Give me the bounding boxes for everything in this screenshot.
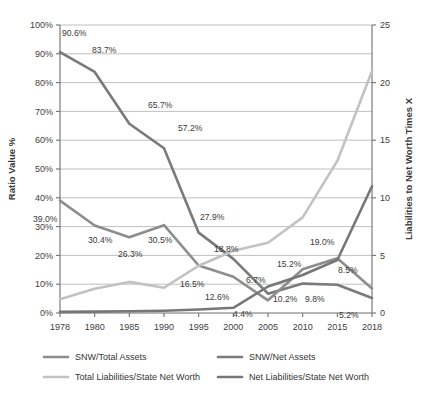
data-point-label: 15.2%: [277, 259, 302, 269]
x-axis-tick-marks: [60, 313, 372, 317]
data-point-label: 57.2%: [178, 123, 203, 133]
y2-axis-tick-labels: 0510152025: [380, 20, 390, 318]
legend-item-label: SNW/Net Assets: [249, 352, 316, 362]
y2-tick-label: 0: [380, 308, 385, 318]
data-point-label: 65.7%: [148, 100, 173, 110]
data-point-label: 30.4%: [88, 235, 113, 245]
y-tick-label: 50%: [35, 164, 53, 174]
x-tick-label: 1995: [189, 322, 209, 332]
y-tick-label: 40%: [35, 193, 53, 203]
data-point-label: 16.5%: [180, 279, 205, 289]
y2-axis-tick-marks: [372, 25, 376, 313]
legend-item-label: SNW/Total Assets: [75, 352, 147, 362]
data-point-label: 26.3%: [118, 249, 143, 259]
data-point-label: 12.6%: [205, 292, 230, 302]
y2-tick-label: 5: [380, 251, 385, 261]
data-point-label: 30.5%: [148, 235, 173, 245]
data-point-label: 8.5%: [338, 265, 358, 275]
data-point-label: 6.7%: [246, 275, 266, 285]
y-tick-label: 80%: [35, 78, 53, 88]
y2-tick-label: 25: [380, 20, 390, 30]
legend-item: Net Liabilities/State Net Worth: [218, 372, 369, 382]
x-axis-tick-labels: 1978198019851990199520002005201020152018: [50, 322, 382, 332]
y-tick-label: 20%: [35, 251, 53, 261]
y2-tick-label: 20: [380, 78, 390, 88]
legend-item: SNW/Net Assets: [218, 352, 316, 362]
data-point-label: 5.2%: [339, 310, 359, 320]
y-tick-label: 0%: [40, 308, 53, 318]
legend-item: SNW/Total Assets: [44, 352, 147, 362]
legend-item-label: Total Liabilities/State Net Worth: [75, 372, 200, 382]
data-point-label: 9.8%: [305, 294, 325, 304]
y2-tick-label: 15: [380, 135, 390, 145]
y-axis-tick-labels: 0%10%20%30%40%50%60%70%80%90%100%: [30, 20, 53, 318]
legend-item: Total Liabilities/State Net Worth: [44, 372, 200, 382]
chart-container: 0%10%20%30%40%50%60%70%80%90%100% 051015…: [0, 0, 422, 394]
line-chart: 0%10%20%30%40%50%60%70%80%90%100% 051015…: [0, 0, 422, 394]
x-tick-label: 1980: [85, 322, 105, 332]
y-tick-label: 100%: [30, 20, 53, 30]
x-tick-label: 2018: [362, 322, 382, 332]
x-tick-label: 1985: [119, 322, 139, 332]
x-tick-label: 1990: [154, 322, 174, 332]
data-point-label: 39.0%: [33, 214, 58, 224]
x-tick-label: 2005: [258, 322, 278, 332]
x-tick-label: 2000: [223, 322, 243, 332]
chart-legend: SNW/Total AssetsSNW/Net AssetsTotal Liab…: [44, 352, 369, 382]
y-tick-label: 70%: [35, 107, 53, 117]
data-point-label: 27.9%: [200, 212, 225, 222]
y-tick-label: 90%: [35, 49, 53, 59]
y-tick-label: 10%: [35, 279, 53, 289]
x-tick-label: 2010: [293, 322, 313, 332]
data-point-label: 18.8%: [214, 244, 239, 254]
y-tick-label: 60%: [35, 135, 53, 145]
data-point-label: 10.2%: [273, 294, 298, 304]
x-tick-label: 1978: [50, 322, 70, 332]
series-lines: [60, 52, 372, 312]
y2-tick-label: 10: [380, 193, 390, 203]
data-point-label: 4.4%: [233, 309, 253, 319]
data-point-label: 83.7%: [92, 45, 117, 55]
data-point-label: 90.6%: [62, 28, 87, 38]
y-axis-title: Ratio Value %: [6, 137, 17, 200]
data-point-label: 19.0%: [310, 237, 335, 247]
y2-axis-title: Liabilities to Net Worth Times X: [403, 97, 414, 240]
data-point-labels: 90.6%83.7%65.7%57.2%27.9%18.8%6.7%10.2%9…: [33, 28, 359, 320]
y-axis-tick-marks: [56, 25, 60, 313]
legend-item-label: Net Liabilities/State Net Worth: [249, 372, 369, 382]
x-tick-label: 2015: [327, 322, 347, 332]
